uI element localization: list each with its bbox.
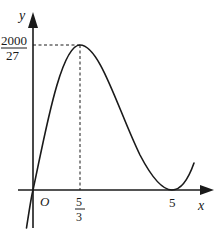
y-axis-arrow-icon <box>28 12 38 28</box>
y-axis-label: y <box>17 8 26 23</box>
min-x-label: 5 <box>169 195 176 210</box>
function-graph: y x O 2000 27 5 3 5 <box>0 0 224 231</box>
max-y-numerator: 2000 <box>1 33 27 48</box>
x-axis-label: x <box>197 198 205 213</box>
origin-label: O <box>40 194 50 209</box>
x-axis-arrow-icon <box>200 185 214 195</box>
max-x-numerator: 5 <box>76 195 82 209</box>
max-y-denominator: 27 <box>6 48 20 63</box>
max-x-denominator: 3 <box>76 210 82 224</box>
